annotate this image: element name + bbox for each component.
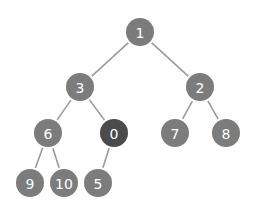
edge-3-6 [57, 100, 71, 120]
tree-node-6: 6 [34, 119, 62, 147]
edge-2-8 [208, 101, 218, 119]
edge-6-10 [53, 148, 59, 168]
node-label: 10 [55, 176, 73, 192]
tree-node-3: 3 [66, 73, 94, 101]
tree-node-2: 2 [186, 73, 214, 101]
edge-3-0 [90, 100, 105, 120]
node-label: 0 [110, 126, 119, 142]
tree-node-8: 8 [212, 119, 240, 147]
tree-node-7: 7 [161, 119, 189, 147]
edge-1-3 [92, 43, 128, 76]
node-label: 3 [76, 80, 85, 96]
tree-node-1: 1 [126, 18, 154, 46]
tree-node-9: 9 [16, 169, 44, 197]
node-label: 5 [94, 176, 103, 192]
node-label: 8 [222, 126, 231, 142]
tree-node-0: 0 [100, 119, 128, 147]
edges-group [35, 43, 218, 168]
edge-0-5 [103, 148, 109, 168]
node-label: 6 [44, 126, 53, 142]
node-label: 7 [171, 126, 180, 142]
edge-2-7 [183, 101, 193, 119]
tree-node-10: 10 [50, 169, 78, 197]
node-label: 2 [196, 80, 205, 96]
edge-6-9 [35, 148, 42, 168]
tree-diagram: 13260789105 [0, 0, 256, 206]
nodes-group: 13260789105 [16, 18, 240, 197]
edge-1-2 [152, 43, 188, 76]
tree-svg: 13260789105 [0, 0, 256, 206]
node-label: 1 [136, 25, 145, 41]
tree-node-5: 5 [84, 169, 112, 197]
node-label: 9 [26, 176, 35, 192]
